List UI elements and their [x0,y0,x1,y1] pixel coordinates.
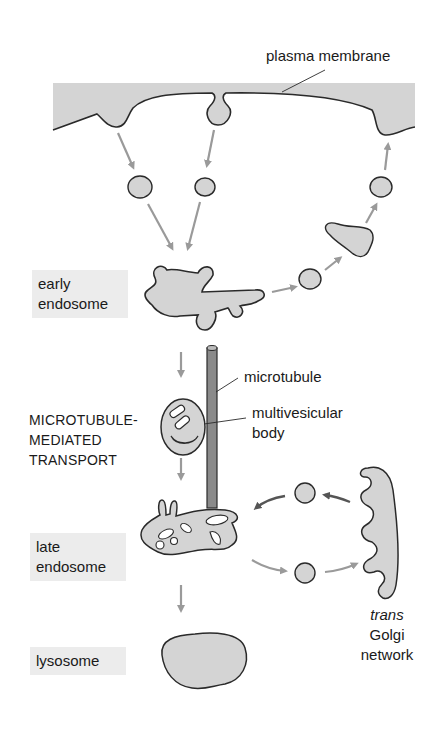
plasma-membrane [53,70,415,135]
arrow [272,287,295,292]
arrow [118,133,133,167]
endocytic-vesicle [195,178,215,196]
recycling-endosome [326,223,373,257]
golgi-vesicle [295,483,315,503]
late-endosome [141,500,237,555]
arrow [207,130,214,165]
microtubule [207,348,217,508]
early-endosome-label: early endosome [32,270,128,318]
plasma-membrane-label: plasma membrane [266,46,390,66]
arrow [325,258,340,270]
recycling-vesicle [299,269,321,289]
multivesicular-body-label: multivesicular body [252,403,343,443]
arrow [325,564,356,572]
trans-golgi-network-label: trans Golgi network [352,605,422,665]
recycling-vesicle [370,177,392,197]
microtubule-transport-label: MICROTUBULE- MEDIATED TRANSPORT [29,410,138,470]
multivesicular-body [161,399,246,455]
microtubule-label: microtubule [244,367,322,387]
arrow [325,495,350,502]
arrow [366,205,376,223]
arrow [188,202,200,248]
golgi-vesicle [295,563,315,583]
microtubule-leader [216,378,238,392]
endocytic-vesicle [128,176,152,198]
arrow [148,204,172,248]
trans-golgi-network [361,467,398,598]
arrow [252,560,285,571]
lysosome-label: lysosome [30,647,126,675]
arrow [385,145,388,170]
early-endosome [145,266,264,330]
microtubule-end [207,346,217,351]
arrow [256,496,285,508]
late-endosome-label: late endosome [30,533,126,581]
lysosome [162,633,247,688]
